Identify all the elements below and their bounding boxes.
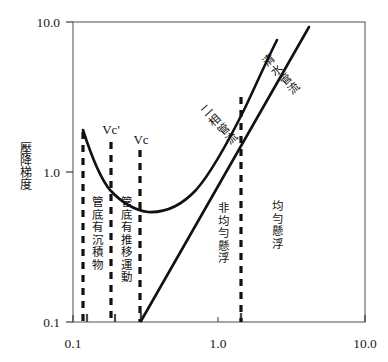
y-axis-title: 壓降梯度 xyxy=(17,142,30,190)
region-label-bedload: 管底有推移運動 xyxy=(119,196,131,284)
marker-label-vc-prime: Vc' xyxy=(102,122,120,137)
chart-canvas: 10.0 1.0 0.1 0.1 1.0 10.0 Vc' Vc xyxy=(0,0,388,362)
plot-frame xyxy=(73,22,365,322)
x-tick-label-right: 10.0 xyxy=(353,336,377,351)
region-label-uniform: 均勻懸浮 xyxy=(270,200,282,250)
y-tick-label-top: 10.0 xyxy=(36,15,60,30)
y-tick-label-mid: 1.0 xyxy=(43,165,60,180)
plot-border xyxy=(73,22,365,322)
y-tick-label-bottom: 0.1 xyxy=(43,315,60,330)
region-label-deposit: 管底有沉積物 xyxy=(90,196,102,271)
x-tick-label-left: 0.1 xyxy=(65,336,82,351)
chart-container: 10.0 1.0 0.1 0.1 1.0 10.0 Vc' Vc 壓降梯度 管底… xyxy=(0,0,388,362)
region-label-nonuniform: 非均勻懸浮 xyxy=(216,202,228,265)
y-axis-ticks xyxy=(66,22,73,322)
marker-label-vc: Vc xyxy=(133,132,148,147)
x-tick-label-mid: 1.0 xyxy=(210,336,227,351)
